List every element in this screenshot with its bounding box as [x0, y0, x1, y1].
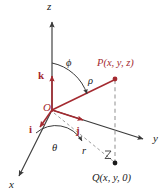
point-p-label: P(x, y, z) — [97, 57, 134, 68]
x-axis-line — [19, 110, 52, 176]
unit-vector-k-label: k — [38, 69, 44, 81]
point-q-label: Q(x, y, 0) — [92, 172, 131, 183]
y-axis-label: y — [153, 132, 158, 144]
origin-label: O — [43, 101, 51, 113]
rho-label: ρ — [88, 75, 93, 86]
unit-vector-j-label: j — [76, 124, 80, 136]
planar-radius-label: r — [82, 145, 86, 156]
figure-canvas — [0, 0, 167, 195]
x-axis-label: x — [9, 178, 14, 190]
unit-vector-j-arrow — [52, 110, 83, 120]
axis-group — [19, 22, 143, 176]
theta-label: θ — [52, 142, 57, 153]
point-q-dot — [113, 161, 118, 166]
phi-label: ϕ — [66, 57, 71, 68]
point-p-dot — [113, 77, 118, 82]
z-axis-label: z — [47, 0, 51, 12]
unit-vector-i-label: i — [29, 123, 32, 135]
spherical-coordinates-figure: z y x O P(x, y, z) Q(x, y, 0) ρ ϕ θ r k … — [0, 0, 167, 195]
